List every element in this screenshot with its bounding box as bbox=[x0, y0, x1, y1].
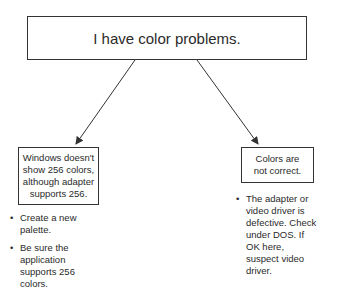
left-branch-steps: Create a new palette. Be sure the applic… bbox=[8, 212, 98, 296]
arrow-to-left-branch bbox=[76, 60, 135, 144]
arrow-to-right-branch bbox=[197, 60, 258, 144]
step-item: Create a new palette. bbox=[8, 212, 98, 236]
right-branch-steps: The adapter or video driver is defective… bbox=[234, 193, 319, 283]
branch-label: Windows doesn't show 256 colors, althoug… bbox=[21, 152, 96, 200]
branch-box-windows-256: Windows doesn't show 256 colors, althoug… bbox=[18, 147, 99, 205]
step-item: The adapter or video driver is defective… bbox=[234, 193, 319, 277]
root-problem-box: I have color problems. bbox=[27, 16, 307, 60]
branch-box-colors-incorrect: Colors are not correct. bbox=[241, 147, 314, 183]
branch-label: Colors are not correct. bbox=[248, 153, 307, 177]
step-item: Be sure the application supports 256 col… bbox=[8, 242, 98, 290]
root-problem-label: I have color problems. bbox=[93, 30, 241, 47]
